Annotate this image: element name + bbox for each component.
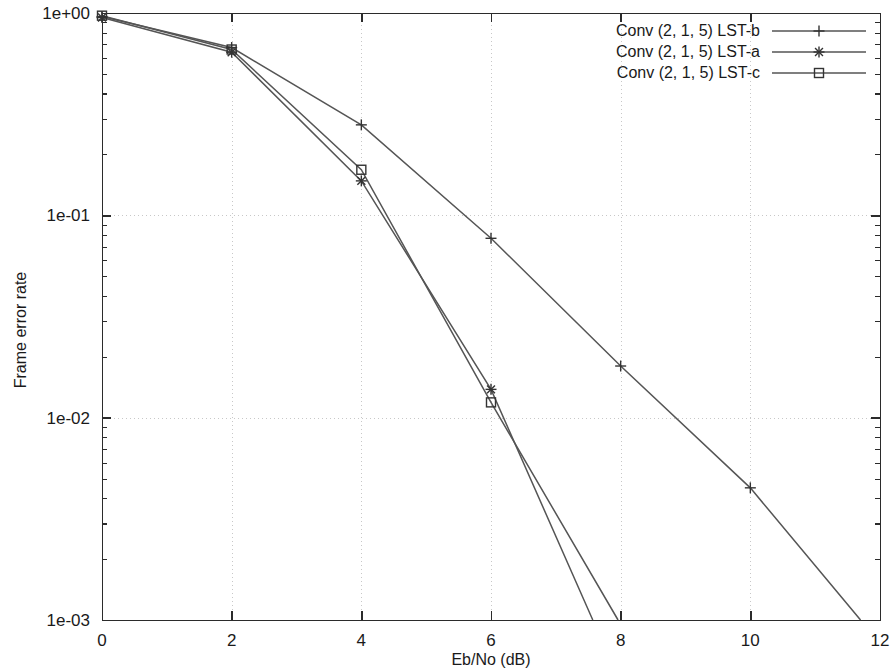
x-tick-label: 0 xyxy=(97,631,106,650)
x-tick-label: 6 xyxy=(486,631,495,650)
legend-label-0: Conv (2, 1, 5) LST-b xyxy=(616,22,760,39)
data-point-marker-asterisk xyxy=(814,47,825,58)
y-tick-label: 1e-01 xyxy=(47,206,90,225)
x-axis-title: Eb/No (dB) xyxy=(451,651,530,668)
marker-group xyxy=(97,11,756,493)
x-tick-labels: 024681012 xyxy=(97,631,889,650)
series-group xyxy=(102,16,861,620)
y-tick-label: 1e+00 xyxy=(42,4,90,23)
x-tick-label: 4 xyxy=(357,631,366,650)
series-line-1 xyxy=(102,18,593,620)
frame-error-rate-chart: 1e+001e-011e-021e-03 024681012 Conv (2, … xyxy=(0,0,892,672)
x-tick-label: 10 xyxy=(741,631,760,650)
legend-label-1: Conv (2, 1, 5) LST-a xyxy=(616,43,760,60)
series-line-2 xyxy=(102,16,618,620)
legend-group: Conv (2, 1, 5) LST-bConv (2, 1, 5) LST-a… xyxy=(616,22,866,81)
grid-lines xyxy=(102,13,880,620)
data-point-marker-plus xyxy=(814,26,825,37)
x-tick-label: 12 xyxy=(871,631,890,650)
x-tick-label: 8 xyxy=(616,631,625,650)
y-tick-label: 1e-03 xyxy=(47,611,90,630)
data-point-marker-asterisk xyxy=(486,384,497,395)
chart-page: 1e+001e-011e-021e-03 024681012 Conv (2, … xyxy=(0,0,892,672)
y-tick-labels: 1e+001e-011e-021e-03 xyxy=(42,4,90,630)
y-tick-label: 1e-02 xyxy=(47,409,90,428)
y-axis-title: Frame error rate xyxy=(12,272,29,389)
x-tick-label: 2 xyxy=(227,631,236,650)
legend-label-2: Conv (2, 1, 5) LST-c xyxy=(617,64,760,81)
data-point-marker-asterisk xyxy=(356,175,367,186)
series-line-0 xyxy=(102,17,861,620)
